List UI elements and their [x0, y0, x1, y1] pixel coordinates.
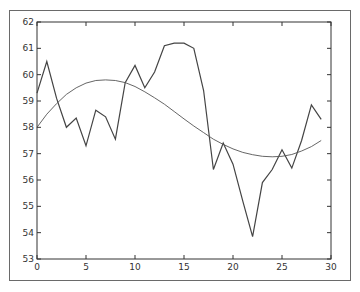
x-tick-label: 10	[129, 262, 141, 272]
y-tick-label: 58	[23, 122, 35, 132]
line-chart: 05101520253053545556575859606162	[0, 0, 360, 292]
y-tick-label: 60	[23, 70, 35, 80]
x-tick-label: 30	[325, 262, 337, 272]
y-tick-label: 62	[23, 17, 34, 27]
y-tick-label: 56	[23, 175, 35, 185]
y-tick-label: 57	[23, 149, 34, 159]
y-tick-label: 61	[23, 43, 34, 53]
y-tick-label: 54	[23, 228, 35, 238]
y-tick-label: 59	[23, 96, 35, 106]
x-tick-label: 20	[227, 262, 239, 272]
x-tick-label: 5	[83, 262, 89, 272]
plot-area	[37, 22, 331, 259]
axes	[37, 22, 331, 259]
x-tick-label: 15	[178, 262, 189, 272]
x-tick-label: 25	[276, 262, 287, 272]
x-tick-label: 0	[34, 262, 40, 272]
y-tick-label: 55	[23, 201, 34, 211]
y-tick-label: 53	[23, 254, 34, 264]
